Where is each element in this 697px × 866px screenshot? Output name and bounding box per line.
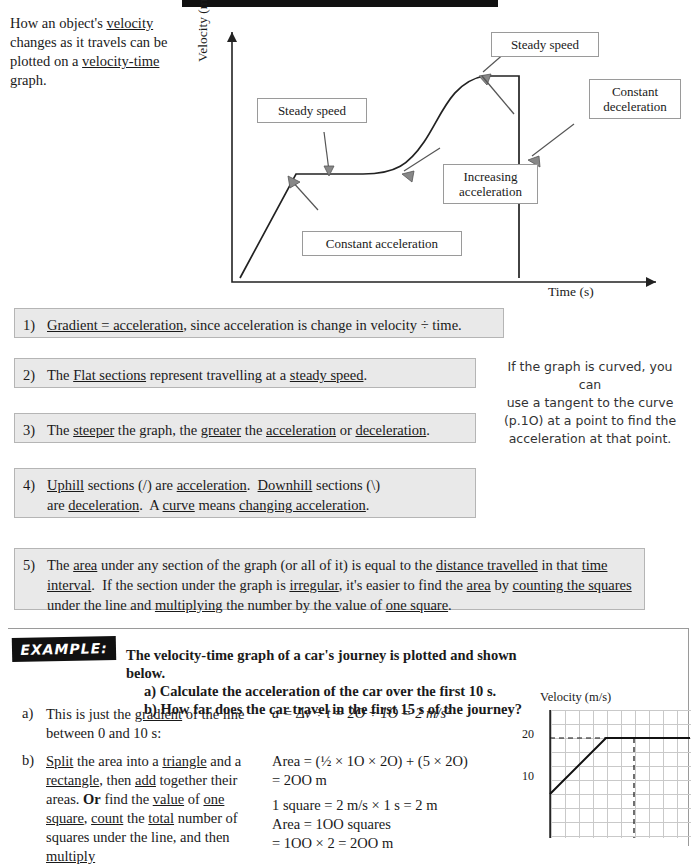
mini-graph-drawing	[510, 690, 690, 848]
example-b-math-line-1: Area = (½ × 1O × 2O) + (5 × 2O)	[272, 752, 492, 771]
example-b-math-line-5: = 1OO × 2 = 2OO m	[272, 834, 492, 853]
callout-constant-acceleration: Constant acceleration	[302, 231, 462, 256]
note-5-number: 5)	[23, 555, 35, 575]
note-1-body: Gradient = acceleration, since accelerat…	[47, 315, 493, 335]
callout-constant-deceleration: Constantdeceleration	[589, 79, 681, 119]
velocity-time-graph: Velocity (m/s) Time (s) Steady speed Ste…	[196, 14, 686, 304]
sidenote-line-2: use a tangent to the curve	[500, 394, 680, 412]
note-1-number: 1)	[23, 315, 35, 335]
note-2-body: The Flat sections represent travelling a…	[47, 365, 465, 385]
example-b-math-line-2: = 2OO m	[272, 771, 492, 790]
graph-drawing	[196, 14, 686, 304]
note-2-number: 2)	[23, 365, 35, 385]
note-1: 1) Gradient = acceleration, since accele…	[14, 308, 504, 338]
example-answer-a: This is just the gradient of the line be…	[46, 705, 261, 743]
note-3-number: 3)	[23, 420, 35, 440]
example-b-math-line-3: 1 square = 2 m/s × 1 s = 2 m	[272, 796, 492, 815]
callout-steady-speed-1: Steady speed	[257, 98, 367, 123]
header-bar	[182, 0, 498, 7]
intro-underline-velocity: velocity	[106, 15, 153, 31]
tangent-sidenote: If the graph is curved, you can use a ta…	[500, 358, 680, 448]
example-answer-b-math: Area = (½ × 1O × 2O) + (5 × 2O) = 2OO m …	[272, 752, 492, 853]
example-answer-a-marker: a)	[22, 705, 33, 722]
note-4: 4) Uphill sections (/) are acceleration.…	[14, 468, 476, 518]
sidenote-line-1: If the graph is curved, you can	[500, 358, 680, 394]
note-5-body: The area under any section of the graph …	[47, 555, 634, 615]
callout-increasing-acceleration: Increasingacceleration	[443, 164, 538, 204]
example-tag: EXAMPLE:	[12, 636, 116, 662]
example-b-math-line-4: Area = 1OO squares	[272, 815, 492, 834]
callout-constant-deceleration-text: Constantdeceleration	[603, 84, 667, 114]
note-4-body: Uphill sections (/) are acceleration. Do…	[47, 475, 465, 515]
example-heading-text: The velocity-time graph of a car's journ…	[126, 647, 517, 681]
callout-steady-speed-2: Steady speed	[491, 32, 599, 57]
example-answer-b-marker: b)	[22, 752, 34, 769]
example-answer-a-math: a = Δv ÷ t = 2O ÷ 1O = 2 m/s²	[272, 705, 451, 722]
sidenote-line-3: (p.1O) at a point to find the	[500, 412, 680, 430]
sidenote-line-4: acceleration at that point.	[500, 430, 680, 448]
callout-increasing-acceleration-text: Increasingacceleration	[459, 169, 522, 199]
note-5: 5) The area under any section of the gra…	[14, 548, 645, 610]
note-3-body: The steeper the graph, the greater the a…	[47, 420, 465, 440]
example-question-a: a) Calculate the acceleration of the car…	[144, 682, 546, 700]
intro-underline-velocity-time: velocity-time	[82, 53, 159, 69]
intro-text-3: graph.	[10, 72, 47, 88]
example-answer-b: Split the area into a triangle and a rec…	[46, 752, 264, 866]
note-2: 2) The Flat sections represent travellin…	[14, 358, 476, 388]
intro-paragraph: How an object's velocity changes as it t…	[10, 14, 190, 90]
note-4-number: 4)	[23, 475, 35, 495]
note-3: 3) The steeper the graph, the greater th…	[14, 413, 476, 443]
example-mini-graph: Velocity (m/s) 20 10	[510, 690, 690, 848]
intro-text-1: How an object's	[10, 15, 106, 31]
